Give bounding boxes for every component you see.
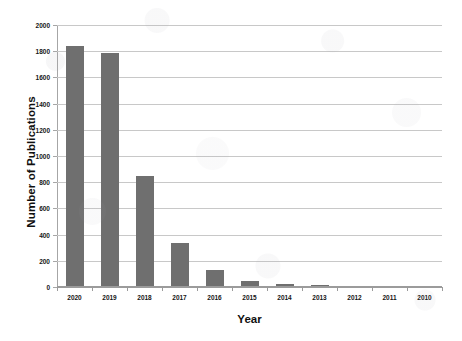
y-tick-mark: [53, 25, 57, 26]
bar-2018: [136, 176, 154, 286]
x-tick-mark: [197, 287, 198, 291]
x-tick-mark: [407, 287, 408, 291]
x-tick-label-2010: 2010: [417, 294, 431, 301]
y-tick-label: 1800: [36, 48, 50, 55]
y-gridline: [57, 51, 442, 52]
x-tick-mark: [127, 287, 128, 291]
y-tick-mark: [53, 130, 57, 131]
bar-2017: [171, 243, 189, 286]
y-tick-mark: [53, 51, 57, 52]
x-axis-title: Year: [57, 313, 442, 325]
y-tick-label: 0: [46, 284, 50, 291]
x-tick-mark: [162, 287, 163, 291]
x-tick-label-2019: 2019: [102, 294, 116, 301]
y-tick-mark: [53, 208, 57, 209]
y-tick-mark: [53, 235, 57, 236]
bar-2013: [311, 285, 329, 286]
x-tick-label-2012: 2012: [347, 294, 361, 301]
bar-2016: [206, 270, 224, 286]
y-tick-label: 1600: [36, 74, 50, 81]
y-axis-title: Number of Publications: [25, 67, 37, 257]
bar-2015: [241, 281, 259, 286]
x-tick-label-2015: 2015: [242, 294, 256, 301]
y-gridline: [57, 25, 442, 26]
y-tick-label: 1200: [36, 126, 50, 133]
x-tick-mark: [442, 287, 443, 291]
x-tick-mark: [232, 287, 233, 291]
x-tick-label-2013: 2013: [312, 294, 326, 301]
y-tick-label: 200: [39, 257, 50, 264]
y-tick-label: 2000: [36, 22, 50, 29]
x-tick-label-2020: 2020: [67, 294, 81, 301]
x-tick-mark: [337, 287, 338, 291]
x-tick-label-2016: 2016: [207, 294, 221, 301]
y-tick-mark: [53, 77, 57, 78]
y-tick-label: 400: [39, 231, 50, 238]
y-tick-label: 1400: [36, 100, 50, 107]
y-tick-label: 600: [39, 205, 50, 212]
x-tick-label-2018: 2018: [137, 294, 151, 301]
x-tick-mark: [92, 287, 93, 291]
x-tick-mark: [372, 287, 373, 291]
y-tick-label: 800: [39, 179, 50, 186]
y-tick-label: 1000: [36, 153, 50, 160]
bar-2014: [276, 284, 294, 286]
y-tick-mark: [53, 104, 57, 105]
x-tick-mark: [267, 287, 268, 291]
y-gridline: [57, 287, 442, 288]
plot-area: 0200400600800100012001400160018002000202…: [57, 25, 442, 287]
publications-by-year-bar-chart: Number of Publications 02004006008001000…: [0, 0, 462, 341]
y-tick-mark: [53, 261, 57, 262]
bar-2020: [66, 46, 84, 286]
x-tick-label-2014: 2014: [277, 294, 291, 301]
bar-2019: [101, 53, 119, 286]
x-tick-label-2011: 2011: [382, 294, 396, 301]
x-tick-mark: [57, 287, 58, 291]
x-tick-label-2017: 2017: [172, 294, 186, 301]
y-tick-mark: [53, 182, 57, 183]
x-tick-mark: [302, 287, 303, 291]
y-tick-mark: [53, 156, 57, 157]
